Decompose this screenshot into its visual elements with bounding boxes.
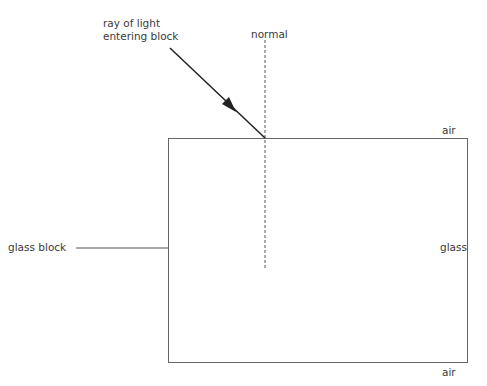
air-top-label: air: [442, 124, 456, 137]
normal-label: normal: [251, 28, 288, 41]
ray-label-line2: entering block: [103, 30, 178, 43]
diagram-canvas: [0, 0, 487, 386]
glass-label: glass: [440, 241, 467, 254]
ray-label-line1: ray of light: [103, 17, 178, 30]
ray-label: ray of light entering block: [103, 17, 178, 43]
glass-block-rect: [169, 139, 468, 363]
glass-block-label: glass block: [8, 241, 66, 254]
ray-line: [170, 48, 265, 138]
air-bottom-label: air: [442, 366, 456, 379]
